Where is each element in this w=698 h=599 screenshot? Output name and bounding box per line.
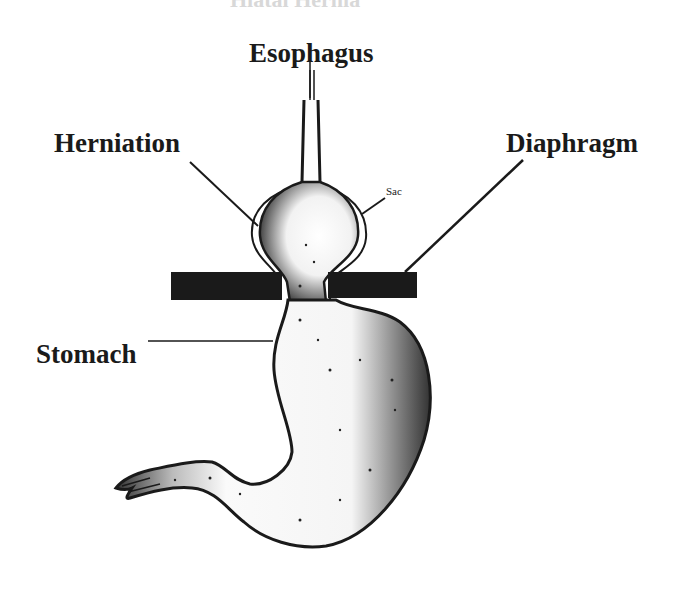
- diaphragm-right: [328, 272, 417, 298]
- esophagus-tube: [302, 70, 320, 182]
- sac-label: Sac: [386, 186, 402, 197]
- herniation-leader: [190, 162, 258, 226]
- stomach-label: Stomach: [36, 341, 137, 368]
- hiatal-hernia-diagram: Hiatal Hernia: [0, 0, 698, 599]
- esophagus-label: Esophagus: [249, 40, 374, 67]
- diaphragm-left: [171, 272, 282, 300]
- diaphragm-label: Diaphragm: [506, 130, 638, 157]
- sac-leader: [362, 198, 385, 214]
- anatomy-illustration: [0, 0, 698, 599]
- stomach-body: [116, 300, 430, 547]
- herniation-label: Herniation: [54, 130, 180, 157]
- diaphragm-leader: [405, 160, 523, 272]
